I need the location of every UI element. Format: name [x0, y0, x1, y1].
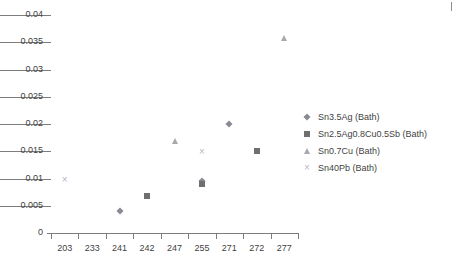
scatter-chart: 00.0050.010.0150.020.0250.030.0350.04 20…	[0, 0, 456, 271]
x-axis-tick-mark	[243, 234, 244, 239]
legend-marker-glyph: ×	[304, 163, 310, 173]
legend-item-label: Sn2.5Ag0.8Cu0.5Sb (Bath)	[318, 129, 427, 139]
x-axis-tick-mark	[271, 234, 272, 239]
square-marker-icon	[300, 127, 314, 141]
chart-legend: Sn3.5Ag (Bath)Sn2.5Ag0.8Cu0.5Sb (Bath)Sn…	[300, 108, 452, 176]
y-axis-tick-label: 0	[0, 227, 43, 237]
data-point	[172, 138, 178, 144]
data-point	[198, 148, 205, 155]
x-axis-tick-label: 247	[161, 243, 188, 253]
x-axis-tick-mark	[51, 234, 52, 239]
legend-marker-glyph	[304, 131, 310, 137]
data-point	[254, 148, 260, 154]
x-axis-line	[51, 233, 299, 234]
data-point	[144, 193, 150, 199]
y-axis-tick-label: 0.005	[0, 200, 43, 210]
cross-marker-icon: ×	[300, 161, 314, 175]
x-axis-tick-label: 277	[271, 243, 298, 253]
x-axis-tick-mark	[188, 234, 189, 239]
x-axis-tick-label: 241	[106, 243, 133, 253]
x-axis-tick-mark	[106, 234, 107, 239]
x-axis-tick-mark	[133, 234, 134, 239]
plot-area	[51, 15, 298, 233]
x-axis-tick-label: 233	[78, 243, 105, 253]
y-axis-tick-label: 0.02	[0, 118, 43, 128]
data-point	[116, 208, 123, 215]
x-axis-tick-mark	[298, 234, 299, 239]
x-axis-tick-label: 255	[188, 243, 215, 253]
x-axis-tick-mark	[161, 234, 162, 239]
legend-item[interactable]: Sn0.7Cu (Bath)	[300, 142, 452, 159]
legend-item[interactable]: ×Sn40Pb (Bath)	[300, 159, 452, 176]
triangle-marker-icon	[300, 144, 314, 158]
x-axis-tick-mark	[216, 234, 217, 239]
diamond-marker-icon	[300, 110, 314, 124]
legend-item-label: Sn40Pb (Bath)	[318, 163, 377, 173]
legend-marker-glyph	[304, 148, 310, 154]
data-point	[281, 35, 287, 41]
x-axis-tick-label: 271	[216, 243, 243, 253]
legend-item-label: Sn3.5Ag (Bath)	[318, 112, 380, 122]
data-point	[226, 120, 233, 127]
legend-marker-glyph	[303, 113, 310, 120]
data-point	[61, 175, 68, 182]
y-axis-tick-label: 0.035	[0, 36, 43, 46]
data-point	[199, 181, 205, 187]
y-axis-tick-label: 0.015	[0, 145, 43, 155]
y-axis-tick-label: 0.03	[0, 64, 43, 74]
legend-item-label: Sn0.7Cu (Bath)	[318, 146, 380, 156]
y-axis-tick-label: 0.04	[0, 9, 43, 19]
corner-tick-mark	[451, 2, 452, 11]
y-axis-tick-label: 0.025	[0, 91, 43, 101]
x-axis-tick-label: 242	[133, 243, 160, 253]
x-axis-tick-mark	[78, 234, 79, 239]
legend-item[interactable]: Sn2.5Ag0.8Cu0.5Sb (Bath)	[300, 125, 452, 142]
x-axis-tick-label: 272	[243, 243, 270, 253]
legend-item[interactable]: Sn3.5Ag (Bath)	[300, 108, 452, 125]
x-axis-tick-label: 203	[51, 243, 78, 253]
y-axis-tick-label: 0.01	[0, 173, 43, 183]
